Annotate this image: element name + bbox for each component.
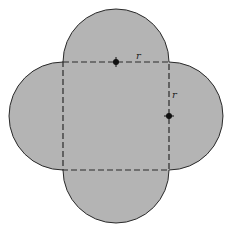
shape-fill (9, 9, 223, 223)
quatrefoil-diagram: r r (0, 0, 228, 231)
